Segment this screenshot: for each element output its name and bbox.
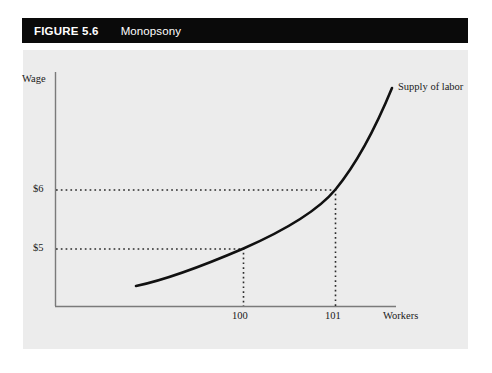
x-axis-title: Workers [383,310,418,321]
supply-of-labor-curve [136,88,392,286]
x-tick-label-101: 101 [325,310,341,321]
y-axis-title: Wage [22,73,46,84]
x-tick-label-100: 100 [232,310,248,321]
supply-curve-label: Supply of labor [398,81,463,92]
y-tick-label-6: $6 [33,183,44,194]
figure-container: FIGURE 5.6 Monopsony Wage $6 $5 100 101 … [0,0,492,373]
y-tick-label-5: $5 [33,242,44,253]
